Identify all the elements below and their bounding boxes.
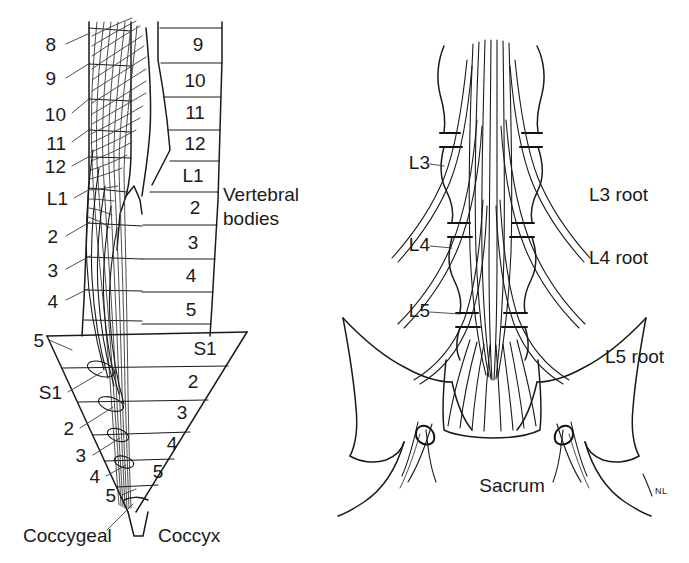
vertebra-label-t10: 10 (184, 70, 205, 91)
vertebra-label-l3: 3 (188, 232, 199, 253)
label-l5-root: L5 root (605, 346, 665, 367)
cord-label-s3: 3 (75, 445, 86, 466)
cord-label-l1: L1 (47, 188, 68, 209)
vertebra-label-s3: 3 (177, 402, 188, 423)
label-l4-root: L4 root (589, 247, 649, 268)
artist-signature: NL (655, 486, 668, 496)
figure-canvas: 8 9 10 11 12 L1 2 3 4 5 S1 2 3 4 5 9 10 … (0, 0, 689, 563)
vertebra-label-l2: 2 (190, 197, 201, 218)
cord-label-s4: 4 (89, 466, 100, 487)
right-bone-labels: Sacrum (479, 475, 544, 496)
vertebra-label-l5: 5 (186, 299, 197, 320)
right-label-l5: L5 (409, 300, 430, 321)
cord-label-s1: S1 (39, 382, 62, 403)
cord-label-t10: 10 (45, 104, 66, 125)
vertebral-bodies-caption-line2: bodies (223, 208, 279, 229)
cord-label-t11: 11 (46, 133, 66, 154)
cord-label-t9: 9 (45, 68, 56, 89)
anatomical-figure: 8 9 10 11 12 L1 2 3 4 5 S1 2 3 4 5 9 10 … (0, 0, 689, 563)
label-l3-root: L3 root (589, 184, 649, 205)
vertebra-label-s4: 4 (167, 433, 178, 454)
cord-label-t8: 8 (45, 34, 56, 55)
right-label-l4: L4 (409, 234, 431, 255)
vertebra-label-s5: 5 (153, 461, 164, 482)
cord-label-t12: 12 (45, 156, 66, 177)
cord-label-l5: 5 (33, 330, 44, 351)
cord-label-s2: 2 (63, 418, 74, 439)
vertebra-label-t12: 12 (184, 133, 205, 154)
cord-label-l3: 3 (47, 260, 58, 281)
vertebra-label-s1: S1 (193, 338, 216, 359)
vertebra-label-l1: L1 (182, 165, 203, 186)
coccygeal-label: Coccygeal (23, 525, 112, 546)
label-sacrum: Sacrum (479, 475, 544, 496)
cord-label-l2: 2 (47, 226, 58, 247)
vertebra-label-t11: 11 (185, 102, 205, 123)
cord-label-l4: 4 (47, 291, 58, 312)
vertebra-label-l4: 4 (186, 265, 197, 286)
vertebra-label-s2: 2 (188, 371, 199, 392)
vertebral-bodies-caption-line1: Vertebral (223, 184, 299, 205)
cord-label-s5: 5 (105, 485, 116, 506)
vertebra-label-t9: 9 (193, 34, 204, 55)
right-label-l3: L3 (409, 152, 430, 173)
coccyx-label: Coccyx (158, 525, 221, 546)
